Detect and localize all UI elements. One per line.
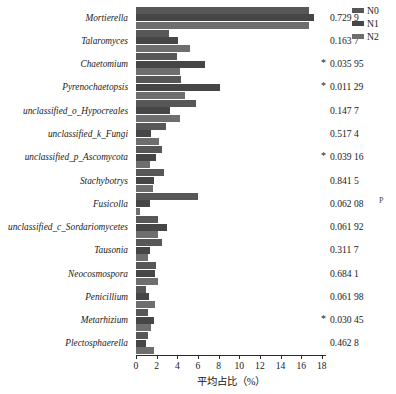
bar-n0-11 — [136, 262, 156, 269]
bar-n2-3 — [136, 92, 185, 99]
significance-star-2: * — [321, 57, 326, 68]
p-value-text-14: 0.462 8 — [330, 337, 359, 348]
x-tick-label-0: 0 — [134, 360, 139, 371]
legend-label-n1: N1 — [367, 18, 379, 29]
bar-n0-10 — [136, 239, 162, 246]
x-tick-label-2: 2 — [154, 360, 159, 371]
legend-label-n0: N0 — [367, 5, 379, 16]
x-tick-label-10: 10 — [234, 360, 244, 371]
significance-star-3: * — [321, 80, 326, 91]
bar-n1-3 — [136, 84, 220, 91]
x-tick-0 — [136, 355, 137, 359]
p-value-text-13: 0.030 45 — [330, 314, 364, 325]
legend-swatch-icon-n1 — [352, 21, 364, 26]
p-value-text-12: 0.061 98 — [330, 291, 364, 302]
bar-n0-14 — [136, 332, 148, 339]
bar-n2-6 — [136, 161, 150, 168]
x-tick-18 — [322, 355, 323, 359]
x-tick-12 — [260, 355, 261, 359]
bar-n1-1 — [136, 37, 178, 44]
bar-n0-9 — [136, 216, 158, 223]
y-axis-label-6: unclassified_p_Ascomycota — [25, 152, 128, 162]
y-axis-label-11: Neocosmospora — [68, 269, 128, 279]
significance-star-13: * — [321, 313, 326, 324]
bar-n0-2 — [136, 53, 177, 60]
x-tick-label-8: 8 — [216, 360, 221, 371]
x-tick-4 — [177, 355, 178, 359]
p-value-text-3: 0.011 29 — [330, 81, 363, 92]
x-tick-label-16: 16 — [296, 360, 306, 371]
bar-n2-5 — [136, 138, 159, 145]
y-axis-label-7: Stachybotrys — [80, 176, 128, 186]
bar-n2-2 — [136, 68, 180, 75]
p-value-text-10: 0.311 7 — [330, 244, 358, 255]
x-tick-16 — [301, 355, 302, 359]
bar-n0-3 — [136, 76, 181, 83]
x-tick-label-14: 14 — [276, 360, 286, 371]
bar-n2-13 — [136, 324, 151, 331]
p-value-6: *0.039 16 — [330, 151, 364, 162]
p-value-3: *0.011 29 — [330, 81, 363, 92]
bar-n1-0 — [136, 14, 314, 21]
y-axis-label-3: Pyrenochaetopsis — [62, 82, 128, 92]
legend-swatch-icon-n2 — [352, 34, 364, 39]
p-value-text-4: 0.147 7 — [330, 105, 359, 116]
bar-n2-8 — [136, 208, 140, 215]
p-value-text-2: 0.035 95 — [330, 58, 364, 69]
bar-n0-8 — [136, 193, 198, 200]
bar-n1-5 — [136, 130, 151, 137]
y-axis-label-5: unclassified_k_Fungi — [48, 129, 128, 139]
p-value-text-11: 0.684 1 — [330, 268, 359, 279]
y-axis-category-labels: MortierellaTalaromycesChaetomiumPyrenoch… — [0, 6, 132, 355]
p-value-14: 0.462 8 — [330, 337, 359, 348]
bar-n2-14 — [136, 347, 154, 354]
x-tick-14 — [281, 355, 282, 359]
legend-item-n1: N1 — [352, 17, 396, 29]
bar-n1-6 — [136, 154, 156, 161]
p-value-column: 0.729 90.163 7*0.035 95*0.011 290.147 70… — [330, 6, 396, 355]
legend-label-n2: N2 — [367, 31, 379, 42]
x-tick-label-4: 4 — [175, 360, 180, 371]
bar-n0-13 — [136, 309, 148, 316]
p-value-2: *0.035 95 — [330, 58, 364, 69]
bar-n0-6 — [136, 146, 162, 153]
p-value-text-8: 0.062 08 — [330, 198, 364, 209]
bar-n0-7 — [136, 169, 164, 176]
bar-n1-4 — [136, 107, 170, 114]
x-tick-label-18: 18 — [317, 360, 327, 371]
y-axis-label-4: unclassified_o_Hypocreales — [23, 106, 128, 116]
x-tick-10 — [239, 355, 240, 359]
y-axis-label-2: Chaetomium — [80, 59, 128, 69]
legend-swatch-icon-n0 — [352, 8, 364, 13]
scan-artifact-glyph: P — [379, 196, 383, 205]
bar-n1-12 — [136, 293, 149, 300]
y-axis-label-10: Tausonia — [94, 245, 128, 255]
y-axis-label-1: Talaromyces — [81, 36, 128, 46]
bar-n1-8 — [136, 200, 150, 207]
bar-n2-11 — [136, 278, 158, 285]
y-axis-label-14: Plectosphaerella — [65, 338, 128, 348]
x-tick-2 — [157, 355, 158, 359]
x-tick-6 — [198, 355, 199, 359]
bar-n0-0 — [136, 7, 309, 14]
y-axis-label-13: Metarhizium — [81, 315, 128, 325]
p-value-9: 0.061 92 — [330, 221, 364, 232]
bar-n0-5 — [136, 123, 166, 130]
bar-n1-11 — [136, 270, 155, 277]
plot-area — [136, 6, 326, 355]
y-axis-label-12: Penicillium — [85, 292, 128, 302]
x-axis-line — [136, 355, 326, 356]
significance-star-6: * — [321, 150, 326, 161]
bar-n2-7 — [136, 185, 153, 192]
p-value-12: 0.061 98 — [330, 291, 364, 302]
y-axis-label-9: unclassified_c_Sordariomycetes — [8, 222, 128, 232]
grouped-horizontal-bar-chart: MortierellaTalaromycesChaetomiumPyrenoch… — [0, 0, 396, 394]
bar-n0-1 — [136, 30, 169, 37]
p-value-11: 0.684 1 — [330, 268, 359, 279]
bar-n1-14 — [136, 340, 146, 347]
bar-n0-4 — [136, 100, 196, 107]
p-value-13: *0.030 45 — [330, 314, 364, 325]
bar-n1-9 — [136, 224, 167, 231]
x-tick-8 — [219, 355, 220, 359]
bar-n2-0 — [136, 22, 309, 29]
